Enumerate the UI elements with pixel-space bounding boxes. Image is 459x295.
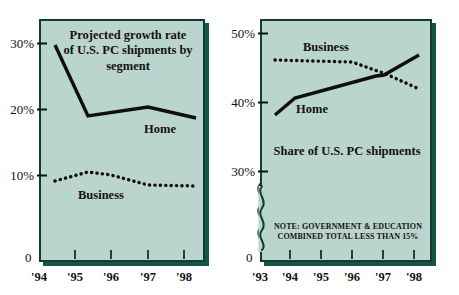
series-label-home-right: Home: [296, 102, 328, 117]
series-label-business-left: Business: [78, 188, 124, 203]
series-label-home-left: Home: [144, 122, 176, 137]
chart-title-right: Share of U.S. PC shipments: [267, 144, 427, 159]
chart-growth-rate: 30% 20% 10% 0 '94 '95 '96 '97 '98: [0, 0, 229, 295]
chart-share: 50% 40% 30% 0 '93 '94 '95 '96 '97 '98: [229, 0, 459, 295]
x-tick-marks-left: [75, 250, 184, 259]
chart-title-left: Projected growth rate of U.S. PC shipmen…: [56, 28, 200, 74]
series-label-business-right: Business: [303, 40, 349, 55]
x-tick-marks-right: [290, 250, 414, 259]
y-tick-marks-left: [37, 44, 47, 176]
series-line-business-left: [55, 172, 196, 186]
axis-break-zigzag-inner: [260, 186, 263, 250]
chart-note-right: NOTE: GOVERNMENT & EDUCATION COMBINED TO…: [269, 222, 427, 243]
pc-shipments-figure: 30% 20% 10% 0 '94 '95 '96 '97 '98: [0, 0, 459, 295]
